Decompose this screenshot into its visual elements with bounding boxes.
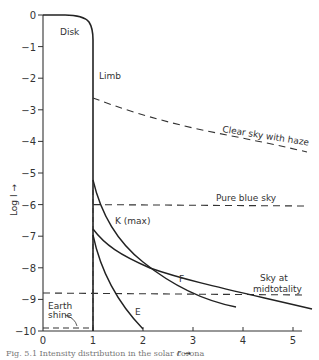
svg-text:−8: −8 <box>21 263 36 274</box>
y-ticks <box>38 15 43 331</box>
label-earth-shine-2: shine <box>48 310 73 320</box>
svg-text:1: 1 <box>90 335 96 346</box>
svg-text:−4: −4 <box>21 136 36 147</box>
x-tick-labels: 0 1 2 3 4 5 <box>40 335 296 346</box>
label-f: F <box>179 274 184 284</box>
svg-text:−10: −10 <box>15 326 36 337</box>
svg-text:−2: −2 <box>21 73 36 84</box>
svg-text:−6: −6 <box>21 200 36 211</box>
label-clear-sky-haze: Clear sky with haze <box>222 124 311 148</box>
label-e: E <box>135 307 141 317</box>
series-clear-sky-haze <box>93 98 307 152</box>
series-k-max <box>93 180 236 307</box>
svg-text:4: 4 <box>240 335 246 346</box>
series-pure-blue-sky <box>93 205 307 206</box>
svg-text:0: 0 <box>40 335 46 346</box>
svg-text:0: 0 <box>30 10 36 21</box>
svg-text:−7: −7 <box>21 231 36 242</box>
svg-text:2: 2 <box>140 335 146 346</box>
svg-text:−3: −3 <box>21 105 36 116</box>
series-disk <box>43 15 93 331</box>
svg-text:5: 5 <box>290 335 296 346</box>
svg-text:−9: −9 <box>21 294 36 305</box>
svg-text:3: 3 <box>190 335 196 346</box>
x-ticks <box>93 327 293 331</box>
svg-text:−1: −1 <box>21 42 36 53</box>
label-sky-midtotality-2: midtotality <box>253 284 303 294</box>
label-sky-midtotality-1: Sky at <box>260 273 288 283</box>
label-disk: Disk <box>60 27 80 37</box>
label-pure-blue-sky: Pure blue sky <box>216 193 277 203</box>
chart: 0 −1 −2 −3 −4 −5 −6 −7 −8 −9 −10 0 1 2 3… <box>0 0 319 360</box>
y-axis-label: Log I → <box>9 184 19 216</box>
label-k-max: K (max) <box>115 216 150 226</box>
y-tick-labels: 0 −1 −2 −3 −4 −5 −6 −7 −8 −9 −10 <box>15 10 36 337</box>
svg-text:−5: −5 <box>21 168 36 179</box>
figure-caption: Fig. 5.1 Intensity distribution in the s… <box>6 349 204 358</box>
label-limb: Limb <box>99 71 121 81</box>
